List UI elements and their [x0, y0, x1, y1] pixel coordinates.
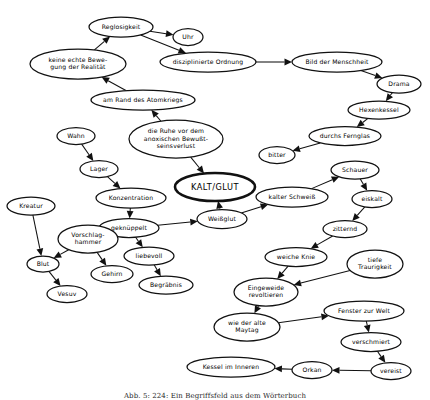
node-label: Maytag	[235, 326, 259, 334]
edge-vorschlaghammer-to-blut	[60, 250, 68, 255]
node-durchs-fernglas[interactable]: durchs Fernglas	[309, 127, 381, 146]
arrowhead-icon	[154, 268, 161, 276]
edge-wahn-to-lager	[82, 144, 89, 155]
node-label: disziplinierte Ordnung	[173, 58, 244, 66]
node-label: Drama	[388, 80, 409, 87]
node-label: Vesuv	[58, 290, 77, 297]
node-hexenkessel[interactable]: Hexenkessel	[348, 101, 410, 119]
arrowhead-icon	[86, 153, 93, 161]
node-vesuv[interactable]: Vesuv	[47, 286, 87, 303]
node-label: Bild der Menschheit	[305, 58, 369, 65]
node-label: Kessel im Inneren	[203, 363, 260, 370]
edge-am-rand-des-atomkriegs-to-keine-echte-bewegung	[108, 81, 126, 91]
edge-bild-der-menschheit-to-drama	[361, 70, 375, 75]
node-tiefe-traurigkeit[interactable]: tiefeTraurigkeit	[347, 250, 403, 278]
edge-fenster-zur-welt-to-verschmiert	[366, 321, 367, 325]
node-label: gung der Realität	[50, 63, 106, 71]
node-kalter-schweiss[interactable]: kalter Schweiß	[256, 187, 328, 207]
node-blut[interactable]: Blut	[27, 256, 59, 272]
node-label: weiche Knie	[277, 253, 315, 260]
node-label: Konzentration	[109, 194, 153, 201]
concept-graph: ReglosigkeitUhrkeine echte Bewe-gung der…	[0, 0, 430, 400]
node-lager[interactable]: Lager	[80, 161, 118, 178]
arrowhead-icon	[378, 355, 385, 363]
edge-tiefe-traurigkeit-to-eingeweide-revoltieren	[301, 270, 350, 283]
edge-liebevoll-to-begraebnis	[154, 265, 157, 270]
node-label: Hexenkessel	[359, 106, 399, 113]
edge-wie-der-alte-maytag-to-fenster-zur-welt	[278, 317, 321, 323]
node-liebevoll[interactable]: liebevoll	[124, 247, 174, 265]
edge-lager-to-konzentration	[107, 177, 115, 184]
edge-eiskalt-to-zitternd	[357, 207, 365, 215]
edge-vorschlaghammer-to-gehirn	[97, 252, 102, 259]
node-label: Uhr	[182, 33, 194, 40]
node-label: Schauer	[342, 166, 368, 173]
node-label: keine echte Bewe-	[49, 56, 108, 63]
node-label: liebevoll	[136, 252, 163, 259]
node-label: Kreatur	[19, 202, 43, 209]
node-label: hammer	[75, 238, 102, 245]
node-kalt-glut[interactable]: KALT/GLUT	[175, 173, 255, 201]
edge-die-ruhe-to-am-rand-des-atomkriegs	[156, 116, 161, 121]
node-kreatur[interactable]: Kreatur	[7, 197, 55, 215]
node-label: seinsverlust	[157, 142, 196, 149]
node-wie-der-alte-maytag[interactable]: wie der alteMaytag	[214, 313, 280, 341]
edge-verschmiert-to-vereist	[377, 351, 381, 356]
node-weissglut[interactable]: Weißglut	[197, 210, 247, 229]
figure-container: ReglosigkeitUhrkeine echte Bewe-gung der…	[0, 0, 430, 400]
node-label: eiskalt	[362, 195, 383, 202]
node-label: KALT/GLUT	[191, 182, 240, 192]
node-eiskalt[interactable]: eiskalt	[352, 191, 392, 208]
node-vereist[interactable]: vereist	[371, 363, 411, 380]
node-gehirn[interactable]: Gehirn	[91, 266, 133, 283]
node-am-rand-des-atomkriegs[interactable]: am Rand des Atomkriegs	[91, 90, 195, 110]
arrowhead-icon	[332, 367, 340, 374]
node-label: geknüppelt	[111, 224, 147, 232]
arrowhead-icon	[386, 93, 393, 101]
edge-die-ruhe-to-kalt-glut	[191, 157, 200, 168]
edge-weiche-knie-to-eingeweide-revoltieren	[282, 266, 288, 273]
node-weiche-knie[interactable]: weiche Knie	[265, 248, 327, 267]
node-schauer[interactable]: Schauer	[331, 161, 379, 179]
figure-caption: Abb. 5: 224: Ein Begriffsfeld aus dem Wö…	[0, 390, 430, 400]
node-bild-der-menschheit[interactable]: Bild der Menschheit	[292, 52, 382, 72]
node-label: am Rand des Atomkriegs	[103, 96, 183, 104]
arrowhead-icon	[311, 242, 319, 249]
node-uhr[interactable]: Uhr	[173, 29, 203, 46]
node-wahn[interactable]: Wahn	[57, 128, 95, 145]
node-label: wie der alte	[228, 319, 266, 326]
node-drama[interactable]: Drama	[377, 75, 421, 93]
node-eingeweide-revoltieren[interactable]: Eingeweiderevoltieren	[234, 278, 298, 306]
node-bitter[interactable]: bitter	[259, 147, 295, 164]
node-label: tiefe	[368, 256, 383, 263]
node-vorschlaghammer[interactable]: Vorschlag-hammer	[58, 225, 118, 253]
node-label: verschmiert	[352, 338, 391, 345]
arrowhead-icon	[166, 30, 174, 37]
arrowhead-icon	[53, 278, 60, 286]
node-die-ruhe[interactable]: die Ruhe vor demanoxischen Bewußt-seinsv…	[129, 120, 223, 158]
node-label: zitternd	[333, 225, 358, 232]
node-konzentration[interactable]: Konzentration	[96, 188, 166, 208]
node-orkan[interactable]: Orkan	[292, 362, 332, 379]
node-label: kalter Schweiß	[269, 193, 316, 200]
node-begraebnis[interactable]: Begräbnis	[139, 276, 193, 294]
arrowhead-icon	[364, 324, 371, 332]
node-label: Reglosigkeit	[102, 23, 141, 31]
node-fenster-zur-welt[interactable]: Fenster zur Welt	[324, 301, 404, 321]
node-label: Blut	[37, 260, 50, 267]
edge-blut-to-vesuv	[49, 271, 56, 280]
node-label: bitter	[268, 151, 286, 158]
node-reglosigkeit[interactable]: Reglosigkeit	[89, 17, 153, 37]
edge-geknueppelt-to-weissglut	[158, 222, 191, 225]
node-keine-echte-bewegung[interactable]: keine echte Bewe-gung der Realität	[30, 49, 126, 79]
edge-hexenkessel-to-durchs-fernglas	[363, 118, 368, 122]
node-disziplinierte-ordnung[interactable]: disziplinierte Ordnung	[160, 52, 256, 72]
node-zitternd[interactable]: zitternd	[323, 221, 367, 238]
arrowhead-icon	[127, 211, 134, 219]
node-kessel-im-inneren[interactable]: Kessel im Inneren	[187, 357, 275, 377]
arrowhead-icon	[136, 239, 143, 247]
edge-reglosigkeit-to-uhr	[150, 31, 166, 33]
arrowhead-icon	[99, 258, 106, 266]
node-label: die Ruhe vor dem	[148, 127, 204, 134]
node-verschmiert[interactable]: verschmiert	[341, 333, 401, 352]
